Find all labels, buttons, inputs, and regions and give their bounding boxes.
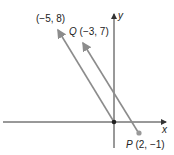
origin-dot [112, 120, 117, 125]
x-axis-label: x [162, 125, 167, 135]
vector-p-to-q [83, 43, 138, 132]
tip-label: (−5, 8) [36, 14, 65, 24]
point-p [136, 130, 141, 135]
p-label: P (2, −1) [126, 140, 165, 150]
y-axis-label: y [118, 11, 123, 21]
q-letter: Q [69, 26, 77, 37]
q-coords: (−3, 7) [80, 26, 109, 37]
coordinate-plane [0, 0, 174, 155]
vector-origin-to-tip [58, 30, 114, 122]
q-label: Q (−3, 7) [69, 27, 109, 37]
p-coords: (2, −1) [135, 139, 164, 150]
p-letter: P [126, 139, 133, 150]
